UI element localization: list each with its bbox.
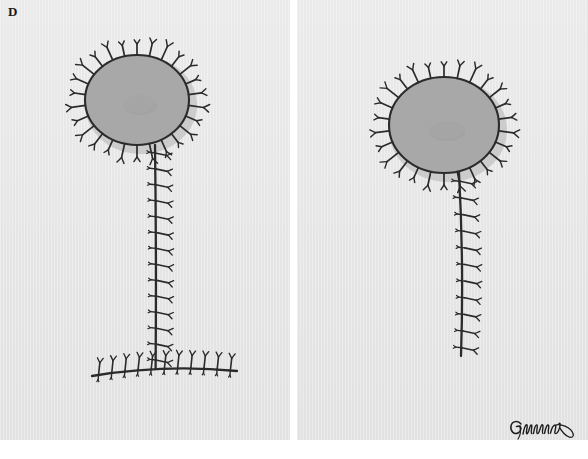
figure-panel-left: D xyxy=(0,0,290,440)
figure-bottom-margin xyxy=(0,440,588,459)
left-diagram xyxy=(0,0,290,440)
panel-label: D xyxy=(8,4,18,20)
figure-root: D xyxy=(0,0,588,459)
right-diagram xyxy=(297,0,588,440)
figure-panel-right xyxy=(297,0,588,440)
panel-gutter xyxy=(290,0,297,440)
artist-signature xyxy=(505,412,585,444)
